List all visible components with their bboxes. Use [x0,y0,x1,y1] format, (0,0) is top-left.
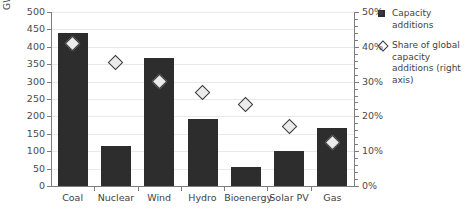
y-axis-tick-label: 500 [15,6,45,17]
y-axis-tick-label: 450 [15,23,45,34]
y-axis-tick [47,29,51,30]
y2-axis-tick [355,186,359,187]
y-axis-right-line [354,12,355,187]
y2-axis-tick [355,165,358,166]
y2-axis-tick [355,123,358,124]
bar [101,146,131,186]
x-axis-tick [181,187,182,191]
y2-axis-tick [355,19,358,20]
y-axis-tick-label: 150 [15,128,45,139]
y2-axis-tick-label: 10% [362,145,383,156]
y-axis-tick [47,134,51,135]
y-axis-tick [47,12,51,13]
y2-axis-tick [355,172,358,173]
y-axis-tick-label: 350 [15,58,45,69]
y2-axis-tick [355,26,358,27]
y-axis-tick-label: 200 [15,110,45,121]
y-axis-tick [47,47,51,48]
y-axis-tick [47,169,51,170]
x-axis-category-label: Solar PV [267,192,310,203]
y2-axis-tick-label: 30% [362,76,383,87]
y2-axis-tick [355,144,358,145]
x-axis-category-label: Gas [311,192,354,203]
x-axis-tick [224,187,225,191]
x-axis-line [51,186,355,187]
y-axis-tick [47,151,51,152]
x-axis-tick [267,187,268,191]
y2-axis-tick [355,75,358,76]
y2-axis-tick [355,33,358,34]
y2-axis-tick [355,130,358,131]
bar [188,119,218,186]
y2-axis-tick [355,96,358,97]
chart-container: GW Capacity additions Share of global ca… [0,0,472,222]
y2-axis-tick [355,68,358,69]
legend-item-capacity-additions: Capacity additions [378,8,472,31]
legend-label: Share of global capacity additions (righ… [392,40,472,86]
y2-axis-tick [355,61,358,62]
y-axis-tick-label: 400 [15,41,45,52]
y-axis-tick [47,82,51,83]
y-axis-tick-label: 250 [15,93,45,104]
y2-axis-tick [355,12,359,13]
y-axis-tick [47,116,51,117]
y2-axis-tick-label: 0% [362,180,377,191]
y-axis-tick [47,99,51,100]
y2-axis-tick [355,151,359,152]
y2-axis-tick [355,102,358,103]
x-axis-tick [138,187,139,191]
y-axis-tick [47,64,51,65]
y2-axis-tick [355,137,358,138]
y-axis-tick-label: 100 [15,145,45,156]
chart-legend: Capacity additions Share of global capac… [378,8,472,95]
x-axis-category-label: Hydro [181,192,224,203]
x-axis-tick [94,187,95,191]
legend-item-share-of-global: Share of global capacity additions (righ… [378,40,472,86]
y2-axis-tick [355,158,358,159]
y2-axis-tick [355,179,358,180]
x-axis-tick [311,187,312,191]
y-axis-tick-label: 0 [15,180,45,191]
y2-axis-tick-label: 40% [362,41,383,52]
y-axis-tick-label: 300 [15,76,45,87]
y-axis-tick [47,186,51,187]
y2-axis-tick [355,40,358,41]
y-axis-title: GW [2,0,12,10]
y2-axis-tick [355,47,359,48]
y2-axis-tick [355,82,359,83]
y-axis-tick-label: 50 [15,163,45,174]
bar [58,33,88,186]
y2-axis-tick-label: 50% [362,6,383,17]
x-axis-category-label: Nuclear [94,192,137,203]
x-axis-category-label: Wind [138,192,181,203]
x-axis-category-label: Coal [51,192,94,203]
x-axis-category-label: Bioenergy [224,192,267,203]
y2-axis-tick-label: 20% [362,110,383,121]
bar [231,167,261,186]
y2-axis-tick [355,54,358,55]
bar [274,151,304,186]
legend-label: Capacity additions [392,8,472,31]
y2-axis-tick [355,109,358,110]
y2-axis-tick [355,116,359,117]
y2-axis-tick [355,89,358,90]
